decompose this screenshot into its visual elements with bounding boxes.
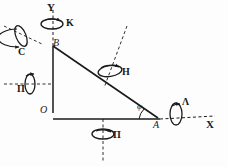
rotation-p-bottom-symbol — [92, 119, 114, 162]
rotation-k-symbol — [41, 19, 63, 29]
rotation-label-k: K — [66, 18, 74, 28]
rotation-c-symbol — [0, 24, 42, 48]
rotation-label-c: С — [18, 47, 25, 57]
rotation-label-p-bottom: П — [113, 130, 121, 140]
rotation-label-h: H — [122, 67, 130, 77]
point-label-a: A — [153, 120, 159, 130]
segment-ba — [53, 46, 158, 118]
axis-label-y: Y — [47, 2, 55, 13]
point-label-b: В — [53, 38, 59, 48]
rotation-lambda-symbol — [170, 103, 182, 125]
rotation-label-lambda: Λ — [182, 97, 189, 107]
rotation-label-p-left: П — [17, 84, 25, 94]
axis-label-x: X — [206, 119, 214, 130]
rotation-p-left-symbol — [4, 74, 53, 94]
figure-canvas: Y X O В A φ K С П H П Λ — [0, 0, 228, 167]
point-label-o: O — [40, 105, 47, 115]
angle-label-phi: φ — [137, 102, 142, 111]
diagram-svg — [0, 0, 228, 167]
x-axis — [53, 116, 215, 119]
